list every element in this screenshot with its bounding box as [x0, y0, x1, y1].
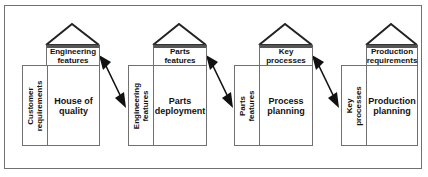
house-side: Engineering features — [128, 65, 153, 146]
main-label: Process planning — [267, 96, 305, 116]
main-label: Parts deployment — [155, 96, 206, 116]
house-main: Parts deployment — [153, 65, 207, 146]
house-main: Process planning — [259, 65, 313, 146]
side-label: Engineering features — [133, 71, 150, 141]
header-label: Key processes — [266, 48, 306, 65]
house-header: Production requirements — [366, 45, 418, 66]
side-label: Customer requirements — [27, 71, 44, 141]
header-label: Engineering features — [50, 48, 96, 65]
double-arrow-icon — [206, 55, 233, 108]
house-main: House of quality — [47, 65, 100, 146]
header-label: Production requirements — [367, 48, 418, 65]
roof-icon — [153, 24, 206, 45]
house-side: Customer requirements — [22, 65, 47, 146]
double-arrow-icon — [99, 55, 126, 108]
house-main: Production planning — [366, 65, 418, 146]
roof-icon — [46, 24, 99, 45]
house-side: Key processes — [341, 65, 366, 146]
main-label: Production planning — [368, 96, 416, 116]
side-label: Key processes — [346, 71, 363, 141]
header-label: Parts features — [164, 48, 195, 65]
qfd-diagram: Engineering features Customer requiremen… — [0, 0, 428, 177]
house-header: Engineering features — [46, 45, 100, 66]
roof-icon — [259, 24, 312, 45]
house-side: Parts features — [234, 65, 259, 146]
house-header: Parts features — [153, 45, 207, 66]
main-label: House of quality — [54, 96, 93, 116]
side-label: Parts features — [239, 71, 256, 141]
roof-icon — [366, 24, 417, 45]
house-header: Key processes — [259, 45, 313, 66]
double-arrow-icon — [312, 55, 339, 108]
